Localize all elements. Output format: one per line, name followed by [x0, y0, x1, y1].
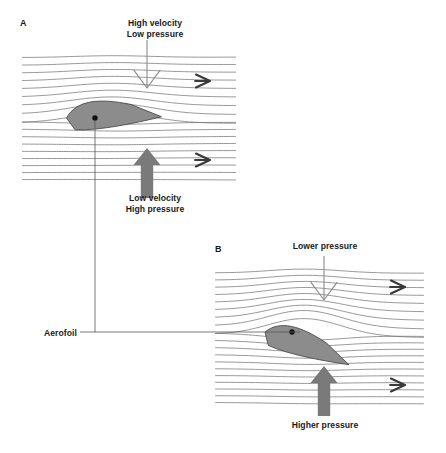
panel-b-bottom-caption: Higher pressure: [270, 420, 380, 431]
figure-canvas: A B High velocity Low pressure Low veloc…: [0, 0, 446, 453]
panel-b-top-caption: Lower pressure: [270, 241, 380, 252]
panel-b-letter: B: [215, 244, 222, 254]
aerofoil-label: Aerofoil: [44, 328, 77, 338]
panel-a-aerofoil: [67, 101, 162, 130]
aerofoil-diagram-svg: [0, 0, 446, 453]
panel-a-top-caption: High velocity Low pressure: [100, 18, 210, 40]
panel-a-letter: A: [20, 18, 27, 28]
panel-a-bottom-caption: Low velocity High pressure: [100, 193, 210, 215]
